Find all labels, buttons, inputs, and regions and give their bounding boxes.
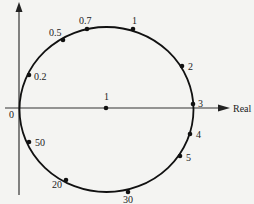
frequency-point-label: 50 [35,137,45,148]
frequency-point-label: 4 [196,129,201,140]
frequency-point [27,140,32,145]
center-point [104,106,109,111]
frequency-point [61,38,66,43]
nyquist-diagram: Real 0 1 0.20.50.712345302050 [0,0,254,204]
imaginary-axis-arrow-icon [16,2,23,12]
frequency-point [85,27,90,32]
real-axis-label: Real [233,103,252,114]
frequency-point [178,154,183,159]
frequency-point-label: 30 [123,194,133,204]
center-point-label: 1 [104,91,109,102]
frequency-point-label: 1 [132,15,137,26]
origin-label: 0 [9,109,14,120]
diagram-svg: Real 0 1 0.20.50.712345302050 [0,0,254,204]
frequency-point-label: 0.5 [49,27,62,38]
frequency-point-label: 5 [186,152,191,163]
frequency-point [27,73,32,78]
frequency-point-label: 2 [188,61,193,72]
real-axis-arrow-icon [218,105,230,112]
frequency-point [131,27,136,32]
frequency-point [64,178,69,183]
frequency-point-label: 20 [52,179,62,190]
frequency-point-label: 3 [198,98,203,109]
frequency-point [180,64,185,69]
frequency-point [191,102,196,107]
frequency-point-label: 0.2 [34,71,47,82]
frequency-point-label: 0.7 [79,15,92,26]
frequency-point [188,132,193,137]
